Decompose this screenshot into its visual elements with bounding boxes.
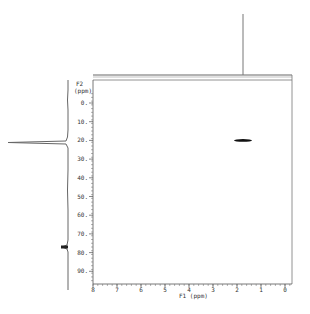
y-tick-label: 30. (77, 155, 88, 162)
y-tick-label: 80. (77, 249, 88, 256)
y-tick-label: 60. (77, 211, 88, 218)
y-tick-label: 90. (77, 267, 88, 274)
y-tick-label: 50. (77, 193, 88, 200)
y-tick-label: 0. (81, 99, 88, 106)
left-projection-minor-peak (61, 246, 68, 249)
x-tick-label: 6 (139, 286, 143, 293)
top-projection (93, 14, 292, 80)
x-tick-label: 0 (283, 286, 287, 293)
y-axis-title-unit: (ppm) (74, 87, 92, 95)
x-tick-label: 5 (163, 286, 167, 293)
plot-frame (93, 80, 292, 284)
y-tick-label: 70. (77, 230, 88, 237)
x-tick-label: 7 (115, 286, 119, 293)
x-tick-label: 1 (259, 286, 263, 293)
x-tick-label: 8 (91, 286, 95, 293)
cross-peak (234, 139, 252, 142)
nmr-2d-plot: 0.10.20.30.40.50.60.70.80.90. 876543210 … (0, 0, 310, 314)
y-tick-label: 10. (77, 118, 88, 125)
y-tick-label: 40. (77, 174, 88, 181)
x-tick-label: 3 (211, 286, 215, 293)
cross-peaks (234, 139, 252, 142)
x-tick-label: 2 (235, 286, 239, 293)
y-axis: 0.10.20.30.40.50.60.70.80.90. (77, 94, 93, 281)
left-projection (8, 80, 68, 290)
x-axis-title: F1 (ppm) (179, 292, 208, 300)
y-axis-title-f2: F2 (76, 80, 84, 87)
y-tick-label: 20. (77, 136, 88, 143)
